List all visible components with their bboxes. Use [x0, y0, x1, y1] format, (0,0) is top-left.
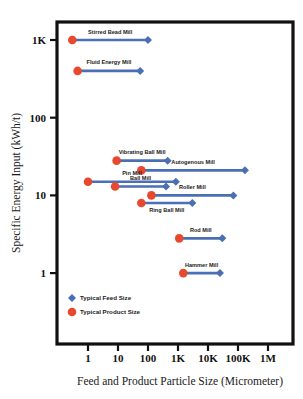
x-tick-label: 1: [85, 352, 91, 364]
y-axis-title: Specific Energy Input (kWh/t): [10, 113, 23, 253]
chart-container: 1101001K10K100K1M 1K100101 Stirred Bead …: [0, 0, 303, 399]
legend-label: Typical Feed Size: [80, 294, 132, 301]
series-label: Autogenous Mill: [171, 159, 215, 165]
product-size-marker: [112, 156, 121, 165]
legend-label: Typical Product Size: [80, 308, 141, 315]
series-label: Roller Mill: [179, 184, 206, 190]
series-label: Stirred Bead Mill: [88, 29, 133, 35]
product-size-marker: [73, 67, 82, 76]
x-tick-label: 10K: [198, 352, 218, 364]
series-label: Vibrating Ball Mill: [119, 149, 166, 155]
product-size-marker: [137, 199, 146, 208]
series-label: Ball Mill: [130, 175, 152, 181]
product-size-marker: [84, 177, 93, 186]
x-tick-label: 1K: [171, 352, 186, 364]
x-tick-label: 10: [113, 352, 125, 364]
x-tick-label: 1M: [260, 352, 277, 364]
x-axis-tick-labels: 1101001K10K100K1M: [85, 352, 276, 364]
y-tick-label: 1K: [32, 34, 47, 46]
y-tick-label: 1: [41, 267, 47, 279]
product-size-marker: [111, 182, 120, 191]
y-tick-label: 10: [35, 189, 47, 201]
product-size-marker: [68, 36, 77, 45]
series-label: Fluid Energy Mill: [87, 59, 132, 65]
product-size-marker: [175, 234, 184, 243]
x-tick-label: 100K: [225, 352, 251, 364]
mill-energy-scatter-chart: 1101001K10K100K1M 1K100101 Stirred Bead …: [0, 0, 303, 399]
series-label: Ring Ball Mill: [149, 207, 185, 213]
series-label: Hammer Mill: [185, 262, 219, 268]
x-axis-title: Feed and Product Particle Size (Micromet…: [77, 375, 283, 388]
x-tick-label: 100: [140, 352, 157, 364]
product-size-marker: [179, 269, 188, 278]
y-tick-label: 100: [30, 112, 47, 124]
product-size-marker: [147, 191, 156, 200]
legend-product-marker: [68, 308, 77, 317]
series-label: Rod Mill: [190, 227, 212, 233]
